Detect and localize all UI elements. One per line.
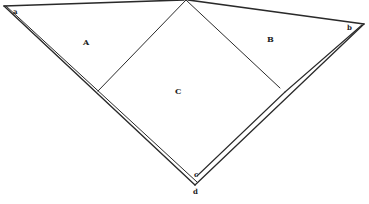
edge-c-b-inner-lower	[197, 92, 285, 176]
edge-a-top	[4, 0, 184, 6]
point-label-c: c	[194, 170, 198, 179]
point-label-a: a	[13, 7, 18, 16]
edge-c-b-inner-upper	[285, 25, 362, 92]
point-label-b: b	[347, 23, 352, 32]
region-label-B: B	[267, 34, 274, 44]
region-label-A: A	[82, 37, 90, 47]
point-label-d: d	[193, 187, 198, 196]
square-side-left-top	[98, 0, 186, 91]
diagram-canvas: a b c d A B C	[0, 0, 369, 204]
edge-a-d-outer	[4, 6, 195, 185]
edge-top-b	[188, 0, 364, 24]
diagram-figure: a b c d A B C	[0, 0, 369, 204]
region-label-C: C	[175, 86, 181, 96]
edge-a-c-inner	[6, 6, 197, 182]
edge-d-b-outer	[195, 24, 364, 185]
square-side-top-right	[186, 0, 280, 88]
